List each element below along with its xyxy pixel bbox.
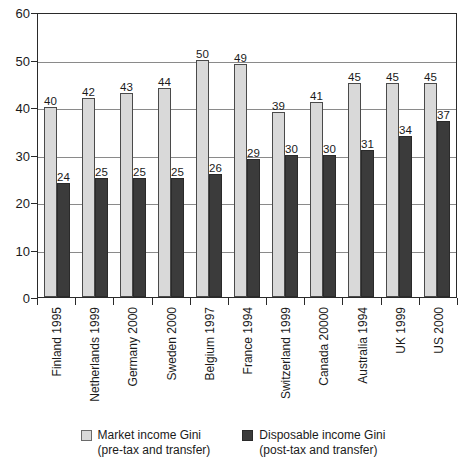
x-tick-mark bbox=[190, 298, 191, 305]
bar-disposable[interactable]: 24 bbox=[57, 183, 70, 297]
bar-disposable[interactable]: 25 bbox=[133, 178, 146, 297]
bar-market[interactable]: 45 bbox=[348, 83, 361, 297]
x-axis-labels: Finland 1995Netherlands 1999Germany 2000… bbox=[37, 307, 457, 419]
bars-layer: 4024422543254425502649293930413045314534… bbox=[38, 14, 456, 297]
x-label-cell: UK 1999 bbox=[381, 307, 419, 419]
x-label-cell: Canada 20000 bbox=[304, 307, 342, 419]
x-tick-mark bbox=[457, 298, 458, 305]
x-label-cell: Belgium 1997 bbox=[190, 307, 228, 419]
x-label-cell: Sweden 2000 bbox=[152, 307, 190, 419]
bar-value-label: 40 bbox=[44, 95, 57, 107]
bar-value-label: 49 bbox=[234, 52, 247, 64]
y-tick-label: 0 bbox=[0, 292, 30, 305]
bar-group: 4130 bbox=[304, 14, 342, 297]
x-label-cell: Australia 1994 bbox=[343, 307, 381, 419]
x-tick-mark bbox=[342, 298, 343, 305]
x-axis-label: Australia 1994 bbox=[357, 307, 369, 384]
bar-value-label: 42 bbox=[82, 86, 95, 98]
x-label-cell: Finland 1995 bbox=[37, 307, 75, 419]
x-axis-label: Netherlands 1999 bbox=[89, 307, 101, 402]
bar-group: 4929 bbox=[228, 14, 266, 297]
x-label-cell: Switzerland 1999 bbox=[266, 307, 304, 419]
bar-market[interactable]: 39 bbox=[272, 112, 285, 297]
bar-market[interactable]: 40 bbox=[44, 107, 57, 297]
legend-label: Market income Gini bbox=[98, 428, 201, 442]
bar-disposable[interactable]: 25 bbox=[171, 178, 184, 297]
legend-item[interactable]: Disposable income Gini(post-tax and tran… bbox=[242, 428, 385, 458]
bar-disposable[interactable]: 34 bbox=[399, 136, 412, 298]
y-tick-label: 20 bbox=[0, 197, 30, 210]
y-tick-label: 60 bbox=[0, 7, 30, 20]
bar-disposable[interactable]: 30 bbox=[285, 155, 298, 298]
y-tick-label: 40 bbox=[0, 102, 30, 115]
legend-text: Market income Gini(pre-tax and transfer) bbox=[98, 428, 211, 458]
x-tick-mark bbox=[75, 298, 76, 305]
bar-value-label: 45 bbox=[348, 71, 361, 83]
bar-disposable[interactable]: 26 bbox=[209, 174, 222, 298]
x-label-cell: US 2000 bbox=[419, 307, 457, 419]
bar-value-label: 50 bbox=[196, 48, 209, 60]
bar-market[interactable]: 49 bbox=[234, 64, 247, 297]
x-axis-label: Canada 20000 bbox=[318, 307, 330, 386]
bar-disposable[interactable]: 30 bbox=[323, 155, 336, 298]
x-tick-mark bbox=[37, 298, 38, 305]
legend-text: Disposable income Gini(post-tax and tran… bbox=[259, 428, 385, 458]
bar-disposable[interactable]: 29 bbox=[247, 159, 260, 297]
bar-disposable[interactable]: 37 bbox=[437, 121, 450, 297]
bar-value-label: 30 bbox=[285, 143, 298, 155]
x-axis-label: US 2000 bbox=[433, 307, 445, 354]
legend-label: Disposable income Gini bbox=[259, 428, 385, 442]
x-tick-mark bbox=[228, 298, 229, 305]
bar-market[interactable]: 44 bbox=[158, 88, 171, 297]
x-axis-ticks bbox=[37, 298, 457, 305]
bar-market[interactable]: 50 bbox=[196, 60, 209, 298]
x-axis-label: France 1994 bbox=[242, 307, 254, 374]
bar-market[interactable]: 42 bbox=[82, 98, 95, 298]
bar-value-label: 31 bbox=[361, 138, 374, 150]
bar-value-label: 34 bbox=[399, 124, 412, 136]
bar-value-label: 43 bbox=[120, 81, 133, 93]
x-tick-mark bbox=[304, 298, 305, 305]
x-axis-label: UK 1999 bbox=[395, 307, 407, 354]
bar-group: 4325 bbox=[114, 14, 152, 297]
bar-disposable[interactable]: 31 bbox=[361, 150, 374, 297]
bar-market[interactable]: 45 bbox=[386, 83, 399, 297]
bar-value-label: 44 bbox=[158, 76, 171, 88]
x-axis-label: Sweden 2000 bbox=[166, 307, 178, 380]
y-tick-label: 30 bbox=[0, 150, 30, 163]
bar-value-label: 30 bbox=[323, 143, 336, 155]
bar-disposable[interactable]: 25 bbox=[95, 178, 108, 297]
legend-item[interactable]: Market income Gini(pre-tax and transfer) bbox=[81, 428, 211, 458]
bar-value-label: 45 bbox=[386, 71, 399, 83]
legend-swatch-market bbox=[81, 430, 92, 441]
x-tick-mark bbox=[419, 298, 420, 305]
legend-swatch-disposable bbox=[242, 430, 253, 441]
x-axis-label: Finland 1995 bbox=[51, 307, 63, 376]
bar-market[interactable]: 45 bbox=[424, 83, 437, 297]
legend-sublabel: (pre-tax and transfer) bbox=[98, 443, 211, 458]
y-tick-label: 50 bbox=[0, 55, 30, 68]
bar-market[interactable]: 43 bbox=[120, 93, 133, 297]
x-axis-label: Switzerland 1999 bbox=[280, 307, 292, 399]
bar-value-label: 25 bbox=[95, 166, 108, 178]
x-tick-mark bbox=[266, 298, 267, 305]
legend-sublabel: (post-tax and transfer) bbox=[259, 443, 385, 458]
bar-value-label: 45 bbox=[424, 71, 437, 83]
y-axis: 0102030405060 bbox=[0, 0, 30, 311]
x-axis-label: Germany 2000 bbox=[127, 307, 139, 386]
bar-value-label: 24 bbox=[57, 171, 70, 183]
bar-value-label: 26 bbox=[209, 162, 222, 174]
gini-bar-chart: 0102030405060 40244225432544255026492939… bbox=[0, 0, 466, 474]
x-axis-label: Belgium 1997 bbox=[204, 307, 216, 380]
x-label-cell: Netherlands 1999 bbox=[75, 307, 113, 419]
x-label-cell: Germany 2000 bbox=[113, 307, 151, 419]
bar-value-label: 37 bbox=[437, 109, 450, 121]
bar-group: 4537 bbox=[418, 14, 456, 297]
x-tick-mark bbox=[152, 298, 153, 305]
chart-legend: Market income Gini(pre-tax and transfer)… bbox=[0, 428, 466, 458]
x-tick-mark bbox=[113, 298, 114, 305]
bar-value-label: 25 bbox=[171, 166, 184, 178]
x-label-cell: France 1994 bbox=[228, 307, 266, 419]
bar-market[interactable]: 41 bbox=[310, 102, 323, 297]
bar-value-label: 25 bbox=[133, 166, 146, 178]
